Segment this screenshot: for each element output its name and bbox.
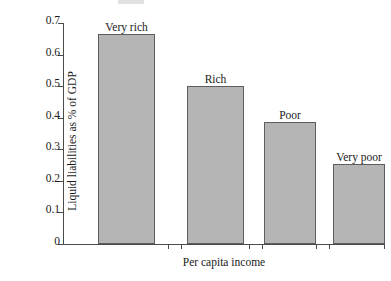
y-axis-title-text: Liquid liabilities as % of GDP	[66, 71, 78, 211]
bar-very-poor[interactable]: Very poor	[333, 164, 385, 245]
x-tick-mark	[329, 245, 330, 249]
y-tick-label: 0.7	[46, 15, 60, 27]
bar-very-rich[interactable]: Very rich	[98, 34, 155, 244]
bar-value-label: Poor	[279, 109, 301, 121]
y-tick-label: 0.6	[46, 47, 60, 59]
cropped-title-remnant	[118, 0, 144, 4]
bar-chart-figure: 0.7 0.6 0.5 0.4 0.3 0.2 0.1 0	[0, 0, 391, 281]
y-axis-title: Liquid liabilities as % of GDP	[66, 71, 78, 211]
bar-value-label: Very poor	[336, 151, 382, 163]
y-tick-label: 0.1	[46, 204, 60, 216]
x-tick-mark	[168, 245, 169, 249]
y-tick-label: 0.2	[46, 173, 60, 185]
y-tick-label: 0.3	[46, 141, 60, 153]
bar-value-label: Very rich	[105, 21, 147, 33]
plot-area: 0.7 0.6 0.5 0.4 0.3 0.2 0.1 0	[63, 23, 385, 244]
bar-poor[interactable]: Poor	[264, 122, 316, 244]
bars-layer: Very rich Rich Poor Very poor	[63, 23, 385, 244]
y-tick-label: 0.5	[46, 78, 60, 90]
x-tick-mark	[262, 245, 263, 249]
x-axis-line	[63, 244, 385, 245]
x-tick-mark	[249, 245, 250, 249]
y-tick-label: 0.4	[46, 110, 60, 122]
x-tick-mark	[181, 245, 182, 249]
y-tick-label: 0	[54, 236, 60, 248]
x-axis-title: Per capita income	[63, 256, 385, 268]
x-tick-mark	[384, 245, 385, 249]
bar-rich[interactable]: Rich	[187, 86, 244, 244]
x-tick-mark	[316, 245, 317, 249]
bar-value-label: Rich	[205, 73, 227, 85]
